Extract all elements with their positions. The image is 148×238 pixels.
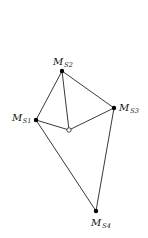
- edges: [36, 71, 114, 211]
- edge-s3-s4: [96, 108, 114, 211]
- labels: MS2 MS1 MS3 MS4: [11, 56, 139, 230]
- node-center-hollow: [67, 128, 71, 132]
- edge-s1-c: [36, 120, 69, 130]
- label-s1: MS1: [11, 112, 31, 125]
- diagram-canvas: MS2 MS1 MS3 MS4: [0, 0, 148, 238]
- edge-s2-c: [62, 71, 69, 130]
- edge-c-s3: [69, 108, 114, 130]
- label-s3: MS3: [118, 102, 139, 115]
- edge-s1-s2: [36, 71, 62, 120]
- node-s2: [60, 69, 64, 73]
- label-s2: MS2: [52, 56, 73, 69]
- node-s4: [94, 209, 98, 213]
- nodes: [34, 69, 116, 213]
- edge-s1-s4: [36, 120, 96, 211]
- label-s4: MS4: [90, 217, 111, 230]
- edge-s2-s3: [62, 71, 114, 108]
- node-s1: [34, 118, 38, 122]
- node-s3: [112, 106, 116, 110]
